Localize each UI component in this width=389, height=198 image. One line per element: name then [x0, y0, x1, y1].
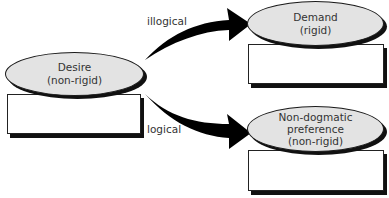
logical-label: logical [147, 123, 181, 135]
desire-box [7, 94, 141, 134]
demand-subtitle: (rigid) [300, 24, 332, 37]
preference-node: Non-dogmatic preference (non-rigid) [247, 106, 384, 152]
demand-node: Demand (rigid) [247, 1, 384, 46]
demand-title: Demand [293, 11, 338, 24]
illogical-label: illogical [147, 15, 187, 27]
preference-subtitle: (non-rigid) [288, 135, 343, 147]
preference-line2: preference [287, 123, 344, 135]
preference-box [248, 150, 384, 191]
desire-title: Desire [58, 61, 91, 74]
desire-node: Desire (non-rigid) [5, 52, 144, 96]
demand-box [248, 44, 384, 84]
logical-arrow [145, 94, 251, 149]
preference-title: Non-dogmatic [279, 111, 353, 123]
desire-subtitle: (non-rigid) [47, 74, 102, 87]
